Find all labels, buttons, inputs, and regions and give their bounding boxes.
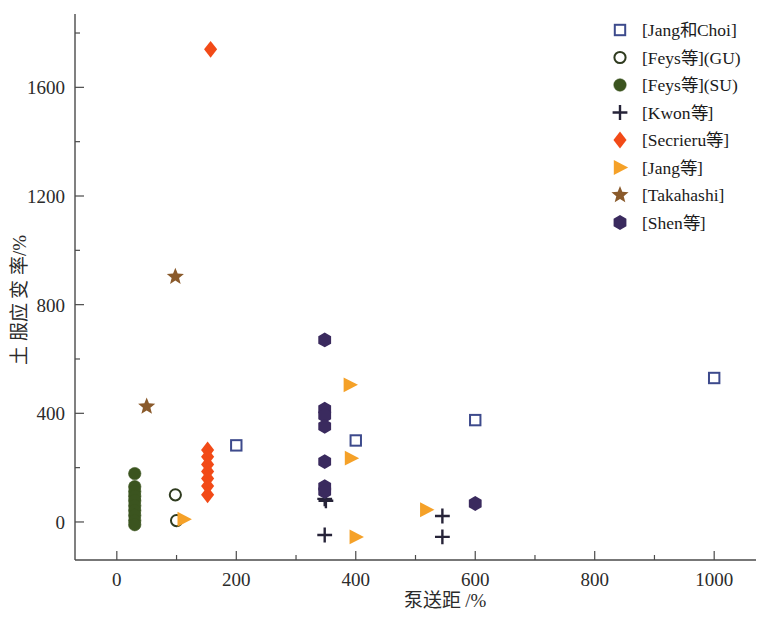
- x-tick-label: 200: [222, 569, 251, 590]
- x-tick-label: 600: [461, 569, 490, 590]
- legend-item-label: [Secrieru等]: [642, 130, 729, 150]
- x-tick-label: 0: [112, 569, 122, 590]
- legend-item-label: [Feys等](SU): [642, 75, 738, 95]
- x-tick-label: 1000: [695, 569, 733, 590]
- filled-circle-glyph: [614, 79, 626, 91]
- y-tick-label: 0: [56, 512, 66, 533]
- legend-item-label: [Jang和Choi]: [642, 20, 737, 40]
- legend-item-label: [Kwon等]: [642, 103, 713, 123]
- scatter-chart: 02004006008001000040080012001600 [Jang和C…: [0, 0, 769, 627]
- y-tick-label: 1600: [27, 77, 65, 98]
- x-tick-label: 400: [342, 569, 371, 590]
- filled-circle-glyph: [129, 518, 141, 530]
- plot-canvas: 02004006008001000040080012001600 [Jang和C…: [0, 0, 769, 627]
- y-tick-label: 1200: [27, 186, 65, 207]
- legend-item-label: [Shen等]: [642, 213, 706, 233]
- x-tick-label: 800: [580, 569, 609, 590]
- y-axis-title: 土 服应 变 率/%: [9, 235, 30, 366]
- marker-filled-circle: [614, 79, 626, 91]
- legend-item-label: [Jang等]: [642, 158, 703, 178]
- y-tick-label: 800: [37, 295, 66, 316]
- legend-item-label: [Takahashi]: [642, 185, 724, 205]
- marker-filled-circle: [129, 518, 141, 530]
- legend-item-label: [Feys等](GU): [642, 48, 741, 68]
- marker-filled-circle: [129, 467, 141, 479]
- y-tick-label: 400: [37, 403, 66, 424]
- filled-circle-glyph: [129, 467, 141, 479]
- series-filled-circle: [129, 467, 141, 530]
- x-axis-title: 泵送距 /%: [404, 590, 487, 611]
